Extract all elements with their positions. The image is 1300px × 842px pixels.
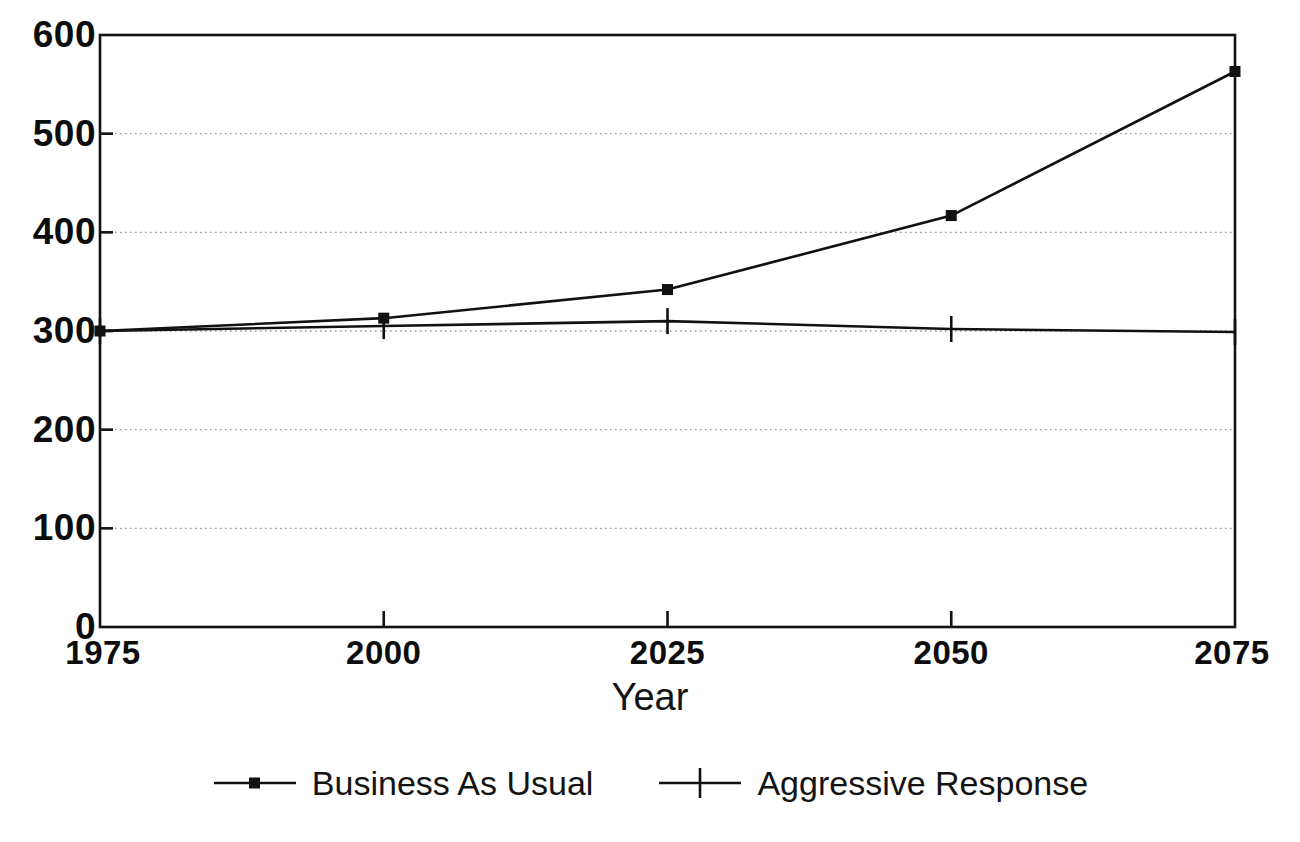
x-axis-tick-label: 1975: [65, 636, 140, 669]
x-axis-tick-label: 2000: [346, 636, 421, 669]
plus-line-marker-icon: [657, 766, 743, 800]
x-axis-tick-label: 2075: [1194, 636, 1269, 669]
data-series-layer: [95, 66, 1241, 345]
legend-label: Aggressive Response: [757, 766, 1088, 800]
chart-legend: Business As Usual Aggressive Response: [0, 766, 1300, 800]
legend-entry-business-as-usual[interactable]: Business As Usual: [212, 766, 594, 800]
x-axis-ticks: [384, 611, 952, 627]
data-point-marker: [662, 284, 673, 295]
x-axis-tick-label: 2050: [914, 636, 989, 669]
legend-label: Business As Usual: [312, 766, 594, 800]
legend-entry-aggressive-response[interactable]: Aggressive Response: [657, 766, 1088, 800]
data-point-marker: [946, 210, 957, 221]
square-line-marker-icon: [212, 766, 298, 800]
chart-figure: 6005004003002001000 19752000202520502075…: [0, 0, 1300, 842]
x-axis-tick-label: 2025: [630, 636, 705, 669]
data-point-marker: [1230, 66, 1241, 77]
x-axis-title: Year: [0, 678, 1300, 716]
